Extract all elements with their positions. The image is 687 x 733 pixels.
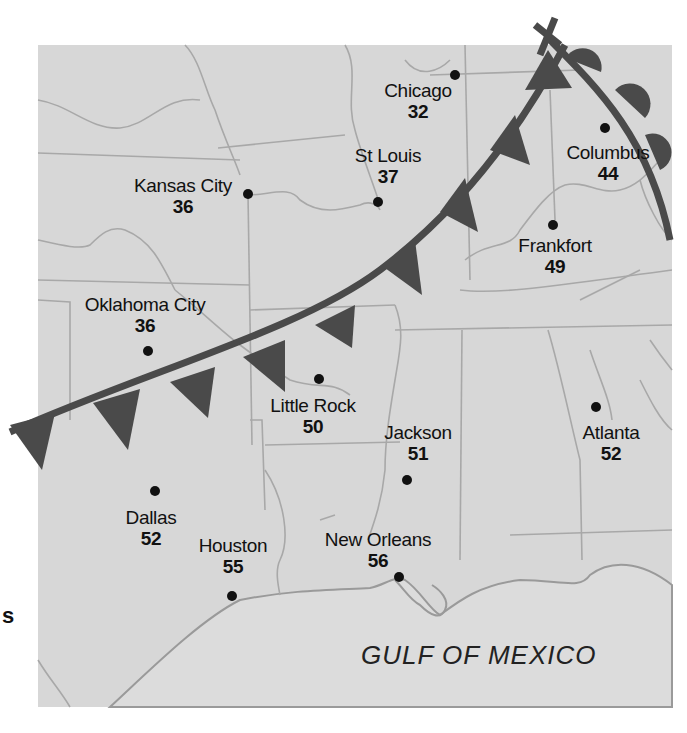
gulf-of-mexico-label: GULF OF MEXICO	[361, 640, 597, 671]
city-label-kansas-city: Kansas City 36	[134, 175, 232, 217]
city-temp: 37	[355, 166, 421, 187]
city-dot-dallas	[150, 486, 160, 496]
city-name: Dallas	[126, 507, 177, 528]
city-name: Atlanta	[582, 422, 639, 443]
city-label-oklahoma-city: Oklahoma City 36	[85, 294, 206, 336]
city-label-jackson: Jackson 51	[384, 422, 452, 464]
city-temp: 49	[518, 256, 591, 277]
edge-text-fragment: s	[2, 603, 14, 629]
city-dot-houston	[227, 591, 237, 601]
city-temp: 44	[566, 163, 649, 184]
city-temp: 32	[384, 101, 452, 122]
city-name: New Orleans	[325, 529, 432, 550]
weather-map: Chicago 32 St Louis 37 Kansas City 36 Co…	[38, 45, 672, 707]
city-name: Oklahoma City	[85, 294, 206, 315]
city-dot-st-louis	[373, 197, 383, 207]
city-temp: 52	[126, 528, 177, 549]
city-temp: 36	[134, 196, 232, 217]
gulf-water	[110, 565, 672, 707]
city-temp: 56	[325, 550, 432, 571]
city-label-atlanta: Atlanta 52	[582, 422, 639, 464]
city-name: Little Rock	[270, 395, 355, 416]
city-label-little-rock: Little Rock 50	[270, 395, 355, 437]
city-dot-frankfort	[548, 220, 558, 230]
city-temp: 55	[199, 556, 268, 577]
city-name: Chicago	[384, 80, 452, 101]
city-name: St Louis	[355, 145, 421, 166]
city-label-houston: Houston 55	[199, 535, 268, 577]
city-label-frankfort: Frankfort 49	[518, 235, 591, 277]
city-temp: 50	[270, 416, 355, 437]
city-dot-jackson	[402, 475, 412, 485]
city-label-columbus: Columbus 44	[566, 142, 649, 184]
city-name: Jackson	[384, 422, 452, 443]
city-dot-columbus	[600, 123, 610, 133]
city-label-new-orleans: New Orleans 56	[325, 529, 432, 571]
city-name: Columbus	[566, 142, 649, 163]
city-temp: 52	[582, 443, 639, 464]
city-label-chicago: Chicago 32	[384, 80, 452, 122]
city-label-st-louis: St Louis 37	[355, 145, 421, 187]
city-temp: 36	[85, 315, 206, 336]
city-dot-atlanta	[591, 402, 601, 412]
city-dot-chicago	[450, 70, 460, 80]
city-temp: 51	[384, 443, 452, 464]
city-label-dallas: Dallas 52	[126, 507, 177, 549]
city-dot-new-orleans	[394, 572, 404, 582]
city-dot-little-rock	[314, 374, 324, 384]
city-name: Kansas City	[134, 175, 232, 196]
city-dot-oklahoma-city	[143, 346, 153, 356]
city-name: Frankfort	[518, 235, 591, 256]
city-dot-kansas-city	[243, 189, 253, 199]
city-name: Houston	[199, 535, 268, 556]
